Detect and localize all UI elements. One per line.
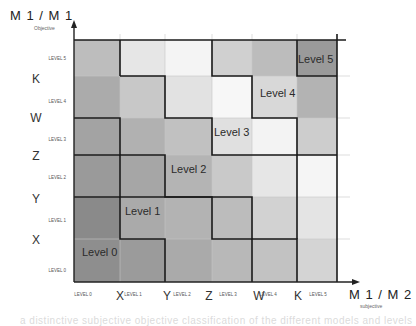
y-label-level-3: LEVEL 3	[26, 137, 66, 142]
y-label-level-2: LEVEL 2	[26, 175, 66, 180]
cell-r1-c0	[74, 197, 120, 239]
cell-r4-c3	[212, 76, 252, 118]
cell-r4-c2	[165, 76, 212, 118]
cell-r2-c5	[297, 155, 337, 197]
level-2-label: Level 2	[171, 163, 206, 175]
cell-r3-c4	[252, 118, 297, 155]
level-3-label: Level 3	[214, 126, 249, 138]
cell-r5-c3	[212, 40, 252, 76]
figure-caption: a distinctive subjective objective class…	[20, 315, 413, 326]
y-label-k: K	[26, 72, 46, 86]
cell-r1-c5	[297, 197, 337, 239]
cell-r4-c1	[120, 76, 165, 118]
level-0-label: Level 0	[82, 246, 117, 258]
level-5-label: Level 5	[298, 53, 333, 65]
x-label-level-2: LEVEL 2	[167, 292, 197, 297]
cell-r5-c1	[120, 40, 165, 76]
x-axis-subtitle: subjective	[360, 303, 382, 309]
y-axis-arrow-icon	[71, 20, 77, 28]
cell-r1-c2	[165, 197, 212, 239]
cell-r2-c4	[252, 155, 297, 197]
cell-r0-c2	[165, 239, 212, 282]
cell-r4-c0	[74, 76, 120, 118]
cell-r3-c0	[74, 118, 120, 155]
x-label-level-0: LEVEL 0	[68, 292, 98, 297]
cell-r0-c5	[297, 239, 337, 282]
cell-r0-c4	[252, 239, 297, 282]
y-label-z: Z	[26, 149, 46, 163]
x-axis-arrow-icon	[352, 279, 360, 285]
x-axis-title: M 1 / M 2	[349, 287, 412, 302]
cell-r5-c2	[165, 40, 212, 76]
cell-r2-c0	[74, 155, 120, 197]
x-label-level-1: LEVEL 1	[118, 292, 148, 297]
y-label-y: Y	[26, 192, 46, 206]
cell-r3-c2	[165, 118, 212, 155]
cell-r1-c3	[212, 197, 252, 239]
y-label-x: X	[26, 233, 46, 247]
y-label-level-4: LEVEL 4	[26, 99, 66, 104]
cell-r5-c0	[74, 40, 120, 76]
y-label-level-0: LEVEL 0	[26, 268, 66, 273]
cell-r3-c5	[297, 118, 337, 155]
cell-r1-c4	[252, 197, 297, 239]
cell-r5-c4	[252, 40, 297, 76]
y-label-w: W	[26, 111, 46, 125]
cell-r3-c1	[120, 118, 165, 155]
x-label-level-5: LEVEL 5	[303, 292, 333, 297]
level-1-label: Level 1	[125, 205, 160, 217]
cell-r4-c5	[297, 76, 337, 118]
cell-r1-c1	[120, 197, 165, 239]
x-label-level-4: LEVEL 4	[253, 292, 283, 297]
level-4-label: Level 4	[260, 87, 295, 99]
x-label-level-3: LEVEL 3	[213, 292, 243, 297]
y-label-level-5: LEVEL 5	[26, 56, 66, 61]
cell-r0-c1	[120, 239, 165, 282]
cell-r2-c2	[165, 155, 212, 197]
cell-r2-c1	[120, 155, 165, 197]
cell-r2-c3	[212, 155, 252, 197]
y-label-level-1: LEVEL 1	[26, 218, 66, 223]
cell-r0-c3	[212, 239, 252, 282]
